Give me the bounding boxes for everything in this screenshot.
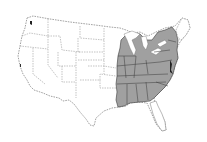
us-range-map bbox=[0, 0, 207, 142]
sf-bay-accent bbox=[20, 64, 21, 67]
northern-new-england bbox=[176, 18, 190, 40]
